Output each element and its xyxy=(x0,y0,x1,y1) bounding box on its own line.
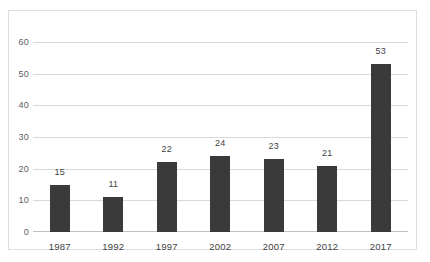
bar-value-label: 23 xyxy=(269,142,279,151)
x-tick-slot: 1997 xyxy=(140,236,194,254)
bar-slot: 11 xyxy=(87,42,141,232)
bar-slot: 15 xyxy=(33,42,87,232)
x-tick-slot: 2007 xyxy=(247,236,301,254)
bar-slot: 24 xyxy=(194,42,248,232)
bar[interactable] xyxy=(103,197,123,232)
x-tick-label: 2007 xyxy=(263,241,285,252)
bar-value-label: 15 xyxy=(55,168,65,177)
x-tick-label: 2012 xyxy=(316,241,338,252)
bar[interactable] xyxy=(157,162,177,232)
x-tick-slot: 2012 xyxy=(301,236,355,254)
x-tick-slot: 2017 xyxy=(354,236,408,254)
x-tick-label: 2002 xyxy=(209,241,231,252)
y-tick-label: 0 xyxy=(7,228,29,237)
x-tick-label: 2017 xyxy=(370,241,392,252)
y-tick-label: 20 xyxy=(7,165,29,174)
y-tick-label: 50 xyxy=(7,70,29,79)
x-tick-slot: 1992 xyxy=(87,236,141,254)
bar-chart-figure: 60 50 40 30 20 10 0 15 11 22 24 xyxy=(0,0,430,262)
x-tick-slot: 1987 xyxy=(33,236,87,254)
y-tick-label: 40 xyxy=(7,101,29,110)
x-tick-label: 1992 xyxy=(102,241,124,252)
bar-slot: 23 xyxy=(247,42,301,232)
bar[interactable] xyxy=(317,166,337,233)
bar[interactable] xyxy=(50,185,70,233)
x-tick-label: 1997 xyxy=(156,241,178,252)
bar-value-label: 11 xyxy=(108,180,118,189)
y-tick-label: 30 xyxy=(7,133,29,142)
bar-value-label: 21 xyxy=(322,149,332,158)
x-tick-label: 1987 xyxy=(49,241,71,252)
bar-slot: 21 xyxy=(301,42,355,232)
x-tick-slot: 2002 xyxy=(194,236,248,254)
plot-area: 15 11 22 24 23 21 53 xyxy=(33,42,408,232)
bar-slot: 22 xyxy=(140,42,194,232)
bar[interactable] xyxy=(210,156,230,232)
bar-value-label: 24 xyxy=(215,139,225,148)
bar-value-label: 53 xyxy=(376,47,386,56)
y-axis: 60 50 40 30 20 10 0 xyxy=(6,42,29,232)
bar[interactable] xyxy=(264,159,284,232)
bar[interactable] xyxy=(371,64,391,232)
bar-slot: 53 xyxy=(354,42,408,232)
y-tick-label: 60 xyxy=(7,38,29,47)
bar-value-label: 22 xyxy=(162,145,172,154)
x-axis: 1987 1992 1997 2002 2007 2012 2017 xyxy=(33,236,408,250)
y-tick-label: 10 xyxy=(7,196,29,205)
